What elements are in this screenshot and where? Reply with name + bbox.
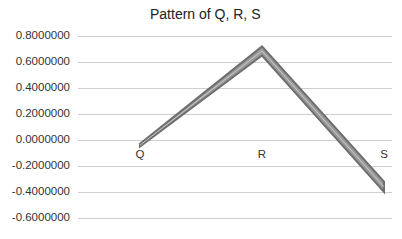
line-series bbox=[0, 0, 402, 239]
